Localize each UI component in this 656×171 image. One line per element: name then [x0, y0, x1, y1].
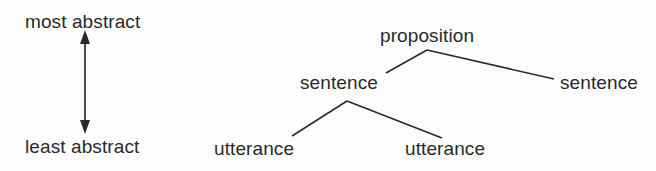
node-sentence-right: sentence [560, 73, 638, 93]
node-utterance-right: utterance [405, 139, 485, 159]
arrow-head-up-icon [80, 30, 90, 44]
arrow-head-down-icon [80, 120, 90, 134]
edge-sentence-utterance-right [347, 101, 442, 138]
least-abstract-label: least abstract [25, 137, 139, 157]
edge-sentence-utterance-left [292, 101, 347, 136]
node-sentence-left: sentence [300, 73, 378, 93]
most-abstract-label: most abstract [25, 12, 140, 32]
edge-proposition-sentence-left [386, 50, 427, 73]
node-utterance-left: utterance [214, 139, 294, 159]
edge-proposition-sentence-right [427, 50, 554, 79]
abstraction-hierarchy-diagram: most abstract least abstract proposition… [0, 0, 656, 171]
node-proposition: proposition [380, 26, 474, 46]
